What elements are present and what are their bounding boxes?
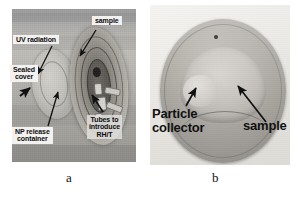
- label-uv-radiation: UV radiation: [13, 35, 59, 44]
- label-particle-collector: Particle collector: [152, 107, 204, 135]
- figure-container: UV radiation Sealed cover NP release con…: [0, 0, 297, 199]
- label-sealed-cover: Sealed cover: [10, 65, 38, 82]
- panel-b-film-grain: [150, 5, 290, 165]
- label-sample-b: sample: [243, 119, 287, 133]
- label-tubes-rh-t: Tubes to introduce RH/T: [87, 115, 122, 139]
- caption-panel-a: a: [66, 170, 72, 186]
- panel-b-image: [150, 5, 290, 165]
- caption-panel-b: b: [212, 170, 219, 186]
- label-np-release-container: NP release container: [12, 127, 53, 144]
- label-sample-a: sample: [92, 16, 122, 25]
